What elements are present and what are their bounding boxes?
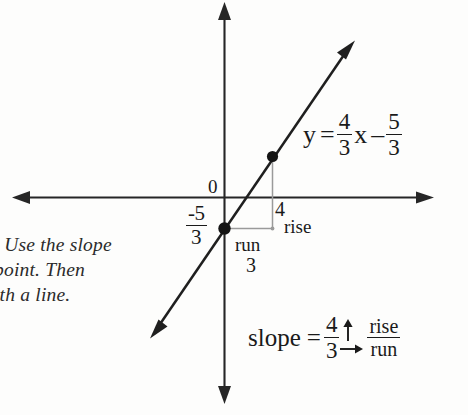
fraction-numerator: 5 [386, 110, 402, 133]
fraction-numerator: 4 [324, 313, 340, 336]
slope-fraction: 4 3 [324, 313, 340, 362]
line-equation: y = 4 3 x – 5 3 [301, 110, 402, 159]
fraction-denominator: 3 [186, 227, 207, 248]
x-axis [12, 191, 434, 204]
instruction-line-1: . Use the slope [0, 232, 144, 257]
equation-equals: = [320, 122, 335, 148]
slope-label: slope [248, 325, 301, 350]
instruction-line-2: point. Then [0, 257, 144, 282]
arrow-right-icon [340, 342, 364, 356]
fraction-denominator: 3 [386, 136, 402, 159]
rise-over-run-fraction: rise run [367, 316, 400, 359]
fraction-numerator: -5 [186, 203, 207, 224]
arrow-up-icon [340, 319, 356, 342]
point-second [267, 151, 278, 162]
fraction-denominator: run [367, 339, 400, 359]
instruction-text: . Use the slope point. Then ith a line. [0, 232, 144, 307]
figure-canvas: . Use the slope point. Then ith a line. … [0, 0, 468, 415]
fraction-denominator: 3 [324, 339, 340, 362]
rise-word-label: rise [284, 217, 311, 236]
equation-minus: – [371, 122, 384, 148]
run-word-label: run [235, 235, 260, 254]
slope-formula: slope = 4 3 rise run [245, 313, 400, 362]
fraction-numerator: rise [367, 316, 400, 336]
slope-equals: = [307, 325, 321, 350]
y-intercept-label: -5 3 [186, 203, 207, 248]
slope-direction-arrows [340, 319, 364, 356]
run-number-label: 3 [246, 255, 256, 275]
plotted-line [150, 41, 355, 339]
instruction-line-3: ith a line. [0, 282, 144, 307]
fraction-denominator: 3 [337, 136, 353, 159]
point-y-intercept [218, 222, 230, 234]
equation-intercept-fraction: 5 3 [386, 110, 402, 159]
fraction-numerator: 4 [337, 110, 353, 133]
fraction-negative-five-thirds: -5 3 [186, 203, 207, 248]
equation-variable-x: x [354, 122, 367, 148]
origin-label: 0 [208, 177, 218, 196]
y-axis [218, 2, 231, 404]
equation-y: y [303, 122, 316, 148]
equation-slope-fraction: 4 3 [337, 110, 353, 159]
